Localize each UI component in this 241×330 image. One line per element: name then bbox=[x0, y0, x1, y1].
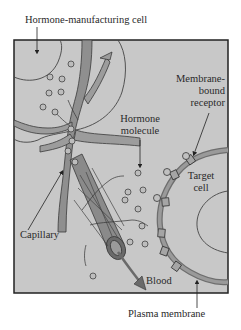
hormone-signaling-diagram bbox=[0, 0, 241, 330]
hormone-cell-label: Hormone-manufacturing cell bbox=[25, 14, 147, 26]
hormone-molecule-line2: molecule bbox=[114, 125, 166, 137]
capillary-label: Capillary bbox=[20, 229, 59, 241]
receptor-label: Membrane- bound receptor bbox=[165, 73, 225, 109]
receptor-label-line2: bound bbox=[165, 85, 225, 97]
target-cell-line1: Target bbox=[184, 170, 218, 182]
hormone-molecule-line1: Hormone bbox=[114, 113, 166, 125]
target-cell-line2: cell bbox=[184, 182, 218, 194]
blood-label: Blood bbox=[146, 275, 172, 287]
receptor-label-line1: Membrane- bbox=[165, 73, 225, 85]
plasma-membrane-label: Plasma membrane bbox=[128, 308, 205, 320]
target-cell-label: Target cell bbox=[184, 170, 218, 194]
hormone-molecule-label: Hormone molecule bbox=[114, 113, 166, 137]
receptor-label-line3: receptor bbox=[165, 97, 225, 109]
